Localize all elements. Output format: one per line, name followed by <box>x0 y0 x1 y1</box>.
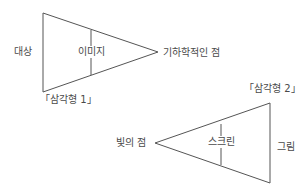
picture-label: 그림 <box>277 141 295 153</box>
triangle-1-caption: 「삼각형 1」 <box>40 94 97 106</box>
image-label: 이미지 <box>77 46 106 58</box>
screen-label: 스크린 <box>207 136 236 148</box>
triangle-2-caption: 「삼각형 2」 <box>244 83 301 95</box>
geometric-point-label: 기하학적인 점 <box>163 47 220 59</box>
light-point-label: 빛의 점 <box>116 137 146 149</box>
object-label: 대상 <box>14 46 32 58</box>
